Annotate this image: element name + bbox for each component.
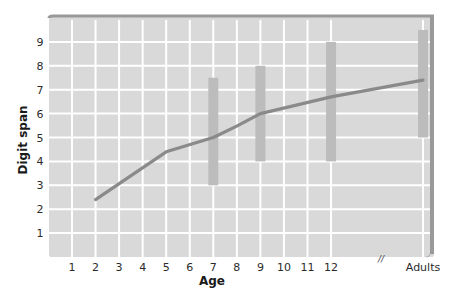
y-tick-label: 1 <box>37 227 44 240</box>
y-axis-ticks: 123456789 <box>37 36 44 240</box>
x-axis-title: Age <box>199 274 225 288</box>
y-tick-label: 2 <box>37 203 44 216</box>
x-tick-label: 7 <box>210 261 217 274</box>
x-tick-label: 4 <box>139 261 146 274</box>
x-tick-label: Adults <box>406 261 441 274</box>
y-tick-label: 5 <box>37 132 44 145</box>
x-tick-label: 3 <box>116 261 123 274</box>
y-tick-label: 6 <box>37 108 44 121</box>
y-tick-label: 9 <box>37 36 44 49</box>
x-tick-label: 11 <box>301 261 315 274</box>
range-bar <box>326 42 336 161</box>
x-tick-label: 8 <box>233 261 240 274</box>
axis-break-marker: // <box>377 254 385 264</box>
y-tick-label: 8 <box>37 60 44 73</box>
y-tick-label: 3 <box>37 179 44 192</box>
range-bar <box>208 78 218 186</box>
x-tick-label: 6 <box>186 261 193 274</box>
x-tick-label: 5 <box>163 261 170 274</box>
x-axis-ticks: 123456789101112Adults <box>69 261 441 274</box>
x-tick-label: 1 <box>69 261 76 274</box>
x-tick-label: 10 <box>277 261 291 274</box>
x-tick-label: 12 <box>324 261 338 274</box>
x-tick-label: 9 <box>257 261 264 274</box>
y-axis-title: Digit span <box>16 105 30 174</box>
y-tick-label: 4 <box>37 155 44 168</box>
y-tick-label: 7 <box>37 84 44 97</box>
x-tick-label: 2 <box>92 261 99 274</box>
range-bar <box>418 30 428 138</box>
digit-span-chart: 123456789 123456789101112Adults // Age D… <box>0 0 454 301</box>
